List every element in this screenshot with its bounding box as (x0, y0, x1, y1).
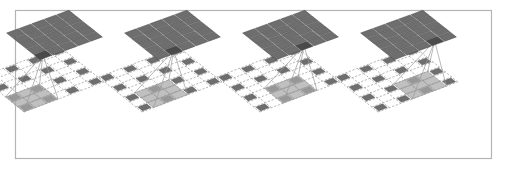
figure-container (0, 0, 506, 169)
dilated-convolution-diagram (0, 0, 506, 169)
